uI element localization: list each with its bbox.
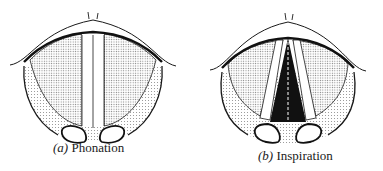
- panel-label: Inspiration: [276, 148, 332, 163]
- panel-letter: (a): [53, 140, 68, 155]
- panel-phonation: [10, 12, 176, 143]
- panel-inspiration: [210, 13, 366, 144]
- panel-label: Phonation: [71, 140, 124, 155]
- panel-letter: (b): [258, 148, 273, 163]
- caption-inspiration: (b) Inspiration: [258, 148, 333, 164]
- caption-phonation: (a) Phonation: [53, 140, 124, 156]
